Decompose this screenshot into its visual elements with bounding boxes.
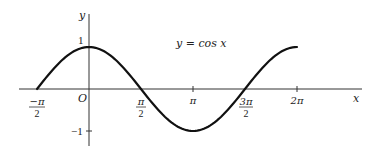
tick-half-pi-num: π: [137, 96, 145, 107]
tick-three-half-pi-num: 3π: [240, 96, 253, 107]
tick-neg-half-pi-num: −π: [30, 96, 45, 107]
tick-neg-half-pi-den: 2: [35, 108, 40, 119]
origin-label: O: [78, 92, 87, 105]
equation-label: y = cos x: [175, 37, 227, 50]
tick-two-pi-label: 2π: [290, 95, 304, 106]
y-axis-label: y: [78, 9, 86, 22]
y-tick-neg-one-label: −1: [71, 125, 83, 137]
y-tick-one-label: 1: [78, 34, 84, 46]
tick-pi-label: π: [189, 95, 197, 106]
tick-half-pi-den: 2: [139, 108, 144, 119]
x-axis-label: x: [353, 92, 360, 105]
tick-three-half-pi-den: 2: [244, 108, 249, 119]
cosine-chart: y x O 1 −1 y = cos x −π 2 π 2 π 3π 2 2π: [0, 0, 377, 151]
